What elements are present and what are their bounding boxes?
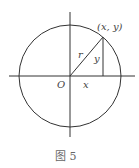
point-label: (x, y) [97, 21, 123, 32]
origin-label: O [57, 79, 65, 90]
figure-caption: 图 5 [55, 150, 77, 163]
y-label: y [93, 53, 100, 64]
radius-label: r [78, 49, 84, 60]
x-label: x [83, 79, 89, 90]
unit-circle-diagram: (x, y) r y O x 图 5 [0, 0, 139, 168]
